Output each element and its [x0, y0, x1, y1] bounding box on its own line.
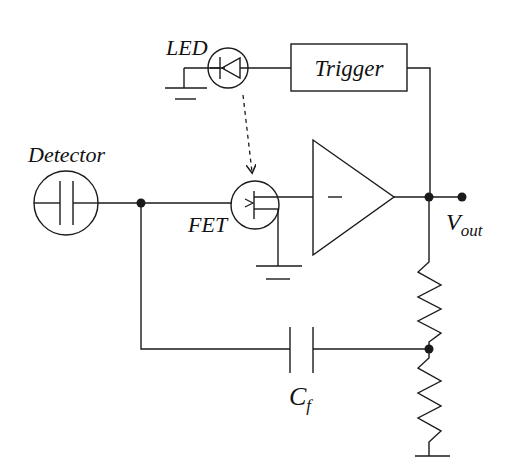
amplifier-icon: [313, 140, 462, 255]
circuit-diagram: LED Trigger Detector FET Vout: [0, 0, 517, 464]
vout-terminal: [458, 193, 467, 202]
detector-icon: [34, 171, 98, 235]
trigger-label: Trigger: [314, 56, 384, 81]
light-arrow-icon: [243, 95, 252, 172]
detector-label: Detector: [27, 142, 105, 167]
led-icon: [208, 48, 291, 88]
upper-resistor-icon: [418, 197, 441, 349]
vout-label: Vout: [446, 209, 484, 240]
fet-icon: [231, 181, 313, 266]
lower-resistor-icon: [418, 349, 441, 456]
fet-label: FET: [187, 212, 229, 237]
feedback-capacitor-icon: [290, 327, 429, 373]
cf-label: Cf: [289, 382, 313, 415]
trigger-output-wire: [407, 68, 430, 197]
fet-ground-icon: [256, 266, 302, 279]
led-label: LED: [165, 35, 208, 60]
